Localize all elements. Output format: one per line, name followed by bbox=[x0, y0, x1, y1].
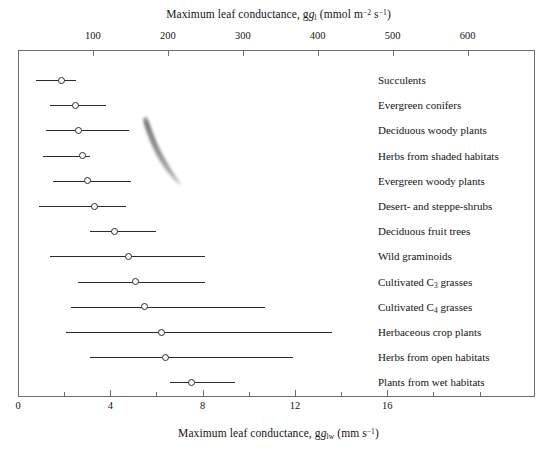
bottom-axis-title: Maximum leaf conductance, gglw (mm s−1) bbox=[0, 427, 557, 439]
range-bar bbox=[53, 181, 131, 182]
category-label: Wild graminoids bbox=[378, 250, 452, 262]
bottom-axis-minor-tick bbox=[156, 392, 157, 397]
category-label-text: Cultivated C bbox=[378, 276, 434, 288]
top-axis-tick-label: 400 bbox=[298, 30, 338, 41]
mean-marker bbox=[84, 177, 91, 184]
bottom-axis-minor-tick bbox=[249, 392, 250, 397]
bottom-axis-tick bbox=[18, 390, 19, 397]
bottom-axis-title-text: Maximum leaf conductance, g bbox=[178, 427, 321, 439]
top-axis-tick bbox=[393, 50, 394, 56]
bottom-axis-tick-label: 12 bbox=[275, 400, 315, 411]
bottom-axis-unit-open: (mm s bbox=[334, 427, 367, 439]
category-label: Evergreen woody plants bbox=[378, 175, 485, 187]
top-axis-title: Maximum leaf conductance, ggl (mmol m−2 … bbox=[0, 8, 557, 20]
bottom-axis-tick-label: 16 bbox=[367, 400, 407, 411]
bottom-axis-title-symbol-sub: glw bbox=[321, 427, 335, 439]
top-axis-unit-open: (mmol m bbox=[317, 8, 363, 20]
range-bar bbox=[46, 130, 129, 131]
range-bar bbox=[39, 206, 127, 207]
category-label: Herbs from open habitats bbox=[378, 351, 490, 363]
top-axis-sup1: −2 bbox=[363, 8, 371, 17]
range-bar bbox=[90, 231, 157, 232]
category-label: Cultivated C4 grasses bbox=[378, 301, 472, 313]
category-label-text: Cultivated C bbox=[378, 301, 434, 313]
top-axis-tick bbox=[93, 50, 94, 56]
top-axis-tick-label: 500 bbox=[373, 30, 413, 41]
top-axis-unit-close: ) bbox=[387, 8, 391, 20]
range-bar bbox=[71, 307, 265, 308]
bottom-axis-unit-close: ) bbox=[375, 427, 379, 439]
category-label: Desert- and steppe-shrubs bbox=[378, 200, 492, 212]
top-axis-sup2: −1 bbox=[379, 8, 387, 17]
top-axis-tick bbox=[468, 50, 469, 56]
category-label: Deciduous fruit trees bbox=[378, 225, 470, 237]
mean-marker bbox=[188, 379, 195, 386]
category-label: Evergreen conifers bbox=[378, 99, 461, 111]
range-bar bbox=[170, 382, 235, 383]
category-label: Herbaceous crop plants bbox=[378, 326, 481, 338]
bottom-axis-tick bbox=[203, 390, 204, 397]
top-axis-tick bbox=[168, 50, 169, 56]
category-label: Deciduous woody plants bbox=[378, 124, 487, 136]
top-axis-tick bbox=[243, 50, 244, 56]
mean-marker bbox=[58, 77, 65, 84]
mean-marker bbox=[91, 203, 98, 210]
bottom-axis-minor-tick bbox=[64, 392, 65, 397]
bottom-axis-sup1: −1 bbox=[367, 427, 375, 436]
top-axis-tick bbox=[318, 50, 319, 56]
bottom-axis-minor-tick bbox=[480, 392, 481, 397]
bottom-axis-minor-tick bbox=[341, 392, 342, 397]
top-axis-tick-label: 200 bbox=[148, 30, 188, 41]
bottom-axis-tick-label: 0 bbox=[0, 400, 38, 411]
top-axis-title-text: Maximum leaf conductance, g bbox=[166, 8, 309, 20]
range-bar bbox=[90, 357, 293, 358]
bottom-axis-tick bbox=[110, 390, 111, 397]
top-axis-unit-mid: s bbox=[371, 8, 379, 20]
bottom-axis-tick-label: 8 bbox=[183, 400, 223, 411]
bottom-axis-tick bbox=[387, 390, 388, 397]
top-axis-tick-label: 600 bbox=[448, 30, 488, 41]
top-axis-tick-label: 100 bbox=[73, 30, 113, 41]
category-label: Succulents bbox=[378, 74, 426, 86]
range-bar bbox=[78, 282, 205, 283]
leaf-conductance-chart: Maximum leaf conductance, ggl (mmol m−2 … bbox=[0, 0, 557, 451]
mean-marker bbox=[75, 127, 82, 134]
bottom-axis-tick-label: 4 bbox=[90, 400, 130, 411]
mean-marker bbox=[72, 102, 79, 109]
bottom-axis-minor-tick bbox=[433, 392, 434, 397]
bottom-axis-tick bbox=[295, 390, 296, 397]
top-axis-tick-label: 300 bbox=[223, 30, 263, 41]
category-label: Herbs from shaded habitats bbox=[378, 150, 499, 162]
range-bar bbox=[36, 80, 75, 81]
mean-marker bbox=[162, 354, 169, 361]
category-label-tail: grasses bbox=[438, 276, 473, 288]
category-label: Cultivated C3 grasses bbox=[378, 276, 472, 288]
range-bar bbox=[66, 332, 331, 333]
category-label-tail: grasses bbox=[438, 301, 473, 313]
top-axis-title-symbol-sub: gl bbox=[309, 8, 317, 20]
mean-marker bbox=[158, 329, 165, 336]
category-label: Plants from wet habitats bbox=[378, 376, 485, 388]
